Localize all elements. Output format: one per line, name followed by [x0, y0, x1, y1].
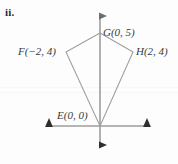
point-label-E: E(0, 0) — [57, 110, 88, 121]
coordinate-plane-svg — [0, 0, 178, 164]
point-label-H: H(2, 4) — [136, 46, 168, 57]
point-label-G: G(0, 5) — [103, 27, 135, 38]
point-label-F: F(−2, 4) — [18, 46, 56, 57]
enumeration-label: ii. — [5, 6, 14, 18]
geometry-figure: ii. G(0, 5) F(−2, 4) H(2, 4) E(0, 0) — [0, 0, 178, 164]
